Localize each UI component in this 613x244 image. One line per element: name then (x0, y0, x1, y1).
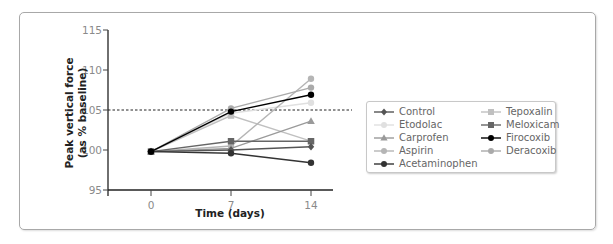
legend-item-etodolac: Etodolac (373, 118, 442, 131)
legend-item-meloxicam: Meloxicam (480, 118, 559, 131)
y-axis-label-line1: Peak vertical force (63, 57, 75, 168)
legend-label: Tepoxalin (506, 106, 553, 117)
legend-item-control: Control (373, 105, 435, 118)
legend-label: Aspirin (399, 145, 433, 156)
data-point (308, 92, 314, 98)
legend-label: Carprofen (399, 132, 449, 143)
legend-label: Deracoxib (506, 145, 556, 156)
y-tick-label: 115 (82, 24, 102, 36)
data-point (307, 117, 315, 124)
data-point (308, 160, 314, 166)
legend-swatch-icon (373, 107, 395, 117)
legend-item-tepoxalin: Tepoxalin (480, 105, 553, 118)
legend-swatch-icon (373, 120, 395, 130)
legend-swatch-icon (480, 107, 502, 117)
x-tick-label: 14 (304, 199, 318, 211)
legend-item-carprofen: Carprofen (373, 131, 449, 144)
x-tick-label: 0 (148, 199, 155, 211)
legend-swatch-icon (480, 133, 502, 143)
legend-item-acetaminophen: Acetaminophen (373, 157, 478, 170)
data-point (228, 150, 234, 156)
legend-swatch-icon (373, 159, 395, 169)
data-point (308, 76, 314, 82)
data-point (148, 148, 154, 154)
y-axis-label-line2: (as % baseline) (76, 68, 88, 159)
data-point (308, 84, 314, 90)
legend-label: Meloxicam (506, 119, 559, 130)
legend-label: Acetaminophen (399, 158, 478, 169)
legend-label: Control (399, 106, 435, 117)
data-point (228, 138, 234, 144)
legend-item-deracoxib: Deracoxib (480, 144, 556, 157)
data-point (228, 108, 234, 114)
x-axis-label: Time (days) (195, 207, 264, 219)
data-point (308, 100, 314, 106)
legend-swatch-icon (480, 146, 502, 156)
chart-legend: ControlEtodolacCarprofenAspirinAcetamino… (366, 101, 556, 173)
legend-swatch-icon (480, 120, 502, 130)
legend-swatch-icon (373, 146, 395, 156)
y-tick-label: 95 (89, 184, 102, 196)
legend-item-firocoxib: Firocoxib (480, 131, 550, 144)
series-group (147, 76, 315, 166)
legend-swatch-icon (373, 133, 395, 143)
legend-item-aspirin: Aspirin (373, 144, 433, 157)
legend-label: Etodolac (399, 119, 442, 130)
legend-label: Firocoxib (506, 132, 550, 143)
axes: 951001051101150714 (82, 24, 352, 211)
